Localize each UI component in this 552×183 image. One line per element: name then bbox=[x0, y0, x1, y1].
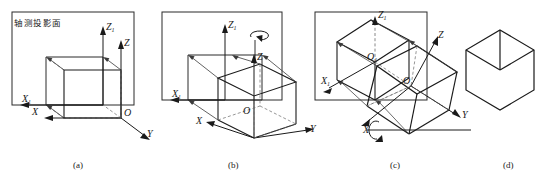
panel-a-label-z1: Z1 bbox=[106, 21, 115, 33]
panel-c-label-z: Z bbox=[438, 29, 444, 40]
axonometric-projection-figure: Z1 Z X1 X Y O 轴测投影面 bbox=[0, 0, 552, 183]
panel-b-caption: (b) bbox=[228, 160, 239, 170]
panel-b-label-z1: Z1 bbox=[228, 19, 237, 31]
panel-b-label-x: X bbox=[195, 115, 203, 126]
panel-c-caption: (c) bbox=[390, 160, 400, 170]
panel-a-label-z: Z bbox=[124, 37, 130, 48]
panel-c-label-o: O bbox=[403, 75, 410, 86]
panel-c-label-x: X bbox=[362, 124, 370, 135]
panel-b-label-x1: X1 bbox=[171, 88, 181, 100]
panel-c-label-o1: O1 bbox=[367, 51, 377, 63]
panel-a-label-x1: X1 bbox=[21, 93, 31, 105]
projection-plane-label: 轴测投影面 bbox=[14, 16, 62, 28]
panel-c-label-z1: Z1 bbox=[378, 9, 387, 21]
panel-a-label-o: O bbox=[124, 107, 131, 118]
panel-d-caption: (d) bbox=[503, 160, 514, 170]
panel-b-drawing: Z1 Z X1 X Y O bbox=[150, 2, 325, 157]
panel-d-drawing bbox=[460, 4, 550, 154]
panel-b-label-z: Z bbox=[257, 51, 263, 62]
panel-a-caption: (a) bbox=[73, 160, 83, 170]
panel-c-label-x1: X1 bbox=[320, 75, 330, 87]
panel-a-label-x: X bbox=[31, 106, 39, 117]
panel-b-label-o: O bbox=[243, 105, 250, 116]
